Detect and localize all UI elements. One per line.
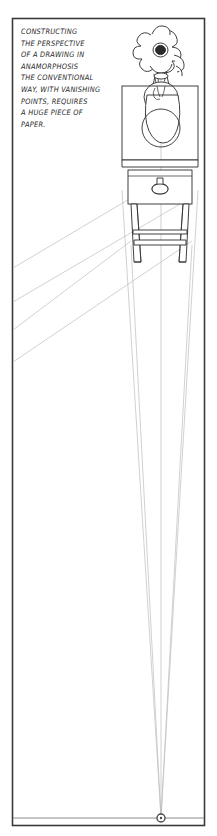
- flower-center-disc: [156, 45, 166, 54]
- leg-stretcher-lower: [134, 240, 186, 245]
- vanishing-point-dot: [160, 817, 162, 819]
- vase-rim: [154, 73, 168, 79]
- leg-stretcher-upper: [133, 230, 187, 234]
- comic-panel: CONSTRUCTING THE PERSPECTIVE OF A DRAWIN…: [0, 0, 217, 836]
- tabletop-edge-band: [122, 160, 198, 167]
- drawer-knob-base: [152, 184, 168, 194]
- panel-artwork: [0, 0, 217, 836]
